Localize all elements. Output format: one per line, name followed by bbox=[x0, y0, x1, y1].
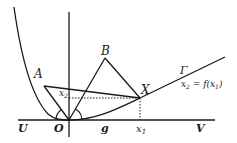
label-x1: x1 bbox=[136, 123, 146, 136]
label-gamma: Γ bbox=[179, 64, 188, 77]
angle-arc-right bbox=[76, 109, 83, 120]
label-u: U bbox=[18, 122, 29, 135]
curve-gamma bbox=[14, 7, 225, 120]
segment-bo bbox=[69, 58, 105, 120]
label-o: O bbox=[54, 122, 64, 135]
label-x: X bbox=[140, 83, 150, 97]
label-v: V bbox=[196, 122, 206, 135]
segment-bx bbox=[105, 58, 140, 98]
label-b: B bbox=[100, 44, 110, 58]
label-x2: x2 bbox=[59, 88, 68, 99]
equation-x2-f-x1: x2 = f(x1) bbox=[181, 79, 223, 90]
geometry-diagram: A B X O U V g Γ x1 x2 x2 = f(x1) bbox=[0, 0, 237, 143]
label-g: g bbox=[101, 122, 109, 135]
label-a: A bbox=[33, 67, 43, 81]
